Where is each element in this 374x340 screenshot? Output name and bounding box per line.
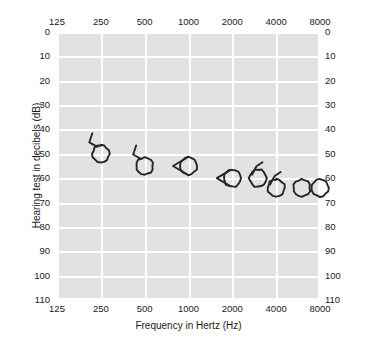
gridline-vertical <box>57 32 59 300</box>
y-tick-label: 50 <box>0 149 50 159</box>
gridline-horizontal <box>57 178 320 180</box>
gridline-horizontal <box>57 81 320 83</box>
y-tick-label: 50 <box>325 149 374 159</box>
gridline-vertical <box>145 32 147 300</box>
audiogram-chart: 1252505001000200040008000 12525050010002… <box>0 0 374 340</box>
x-tick-label: 250 <box>81 16 121 27</box>
gridline-vertical <box>232 32 234 300</box>
x-tick-label: 1000 <box>169 303 209 314</box>
y-tick-label: 100 <box>0 271 50 281</box>
masking-mark-icon <box>133 146 141 160</box>
gridline-horizontal <box>57 129 320 131</box>
x-tick-label: 4000 <box>256 16 296 27</box>
y-tick-label: 40 <box>325 124 374 134</box>
y-tick-label: 30 <box>325 100 374 110</box>
y-tick-label: 90 <box>0 246 50 256</box>
gridline-horizontal <box>57 56 320 58</box>
y-tick-label: 80 <box>325 222 374 232</box>
x-tick-label: 250 <box>81 303 121 314</box>
gridline-vertical <box>276 32 278 300</box>
data-point-marker <box>173 157 197 176</box>
y-tick-label: 90 <box>325 246 374 256</box>
y-tick-label: 70 <box>325 198 374 208</box>
masking-mark-icon <box>173 158 187 174</box>
gridline-horizontal <box>57 154 320 156</box>
y-tick-label: 60 <box>0 173 50 183</box>
y-tick-label: 0 <box>0 27 50 37</box>
x-tick-label: 125 <box>37 16 77 27</box>
gridline-horizontal <box>57 298 320 300</box>
y-tick-label: 110 <box>325 295 374 305</box>
y-tick-label: 40 <box>0 124 50 134</box>
gridline-horizontal <box>57 251 320 253</box>
y-tick-label: 0 <box>325 27 374 37</box>
data-point-marker <box>293 179 310 197</box>
gridline-horizontal <box>57 105 320 107</box>
x-axis-title: Frequency in Hertz (Hz) <box>57 320 320 331</box>
plot-area <box>57 32 320 300</box>
y-tick-label: 10 <box>0 51 50 61</box>
gridline-vertical <box>318 32 320 300</box>
y-tick-label: 10 <box>325 51 374 61</box>
y-tick-label: 70 <box>0 198 50 208</box>
gridline-horizontal <box>57 227 320 229</box>
y-tick-label: 100 <box>325 271 374 281</box>
x-tick-label: 2000 <box>212 16 252 27</box>
x-tick-label: 1000 <box>169 16 209 27</box>
gridline-vertical <box>189 32 191 300</box>
y-tick-label: 20 <box>0 76 50 86</box>
gridline-horizontal <box>57 32 320 34</box>
data-point-marker <box>89 133 109 162</box>
y-tick-label: 30 <box>0 100 50 110</box>
y-tick-label: 60 <box>325 173 374 183</box>
x-tick-label: 4000 <box>256 303 296 314</box>
y-tick-label: 20 <box>325 76 374 86</box>
x-tick-label: 500 <box>125 303 165 314</box>
x-tick-label: 8000 <box>300 16 340 27</box>
x-tick-label: 2000 <box>212 303 252 314</box>
circle-marker-icon <box>293 179 310 197</box>
data-point-marker <box>133 146 153 175</box>
data-point-marker <box>249 162 267 187</box>
gridline-horizontal <box>57 276 320 278</box>
y-tick-label: 110 <box>0 295 50 305</box>
y-axis-title: Hearing test in decibels (dB) <box>31 46 42 286</box>
gridline-horizontal <box>57 203 320 205</box>
gridline-vertical <box>101 32 103 300</box>
y-tick-label: 80 <box>0 222 50 232</box>
x-tick-label: 500 <box>125 16 165 27</box>
masking-mark-icon <box>89 133 97 147</box>
masking-mark-icon <box>252 162 263 175</box>
